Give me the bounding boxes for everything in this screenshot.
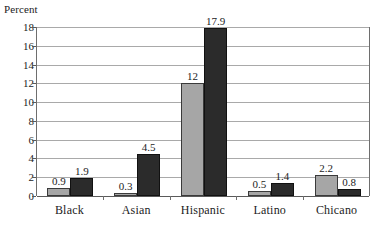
bar-value-label: 1.9 [75,166,89,177]
y-axis-tick-label: 0 [4,191,34,202]
bar-value-label: 0.9 [52,176,66,187]
plot-area: 0.91.90.34.51217.90.51.42.20.8 [36,27,370,196]
bar-group: 0.34.5 [114,27,160,196]
y-axis-tick-label: 8 [4,116,34,127]
bar-value-label: 0.8 [342,177,356,188]
y-axis-tick-mark [32,196,36,197]
bar-value-label: 12 [187,71,198,82]
bar: 2.2 [315,175,338,196]
bar: 12 [181,83,204,196]
bar-chart: Percent 024681012141618 0.91.90.34.51217… [0,0,374,233]
y-axis-tick-label: 4 [4,153,34,164]
bar-group: 0.51.4 [248,27,294,196]
x-axis-category-label: Latino [254,203,287,217]
x-axis-tick-mark [170,196,171,200]
bar-group: 2.20.8 [315,27,361,196]
bar-value-label: 1.4 [275,171,289,182]
y-axis-tick-label: 10 [4,97,34,108]
bar: 0.8 [338,189,361,197]
x-axis-tick-mark [303,196,304,200]
x-axis-category-label: Asian [122,203,151,217]
bar: 1.9 [70,178,93,196]
bar: 4.5 [137,154,160,196]
x-axis-tick-mark [103,196,104,200]
bar: 0.3 [114,193,137,196]
bar-value-label: 4.5 [142,142,156,153]
y-axis-tick-label: 14 [4,60,34,71]
bar: 17.9 [204,28,227,196]
y-axis-title: Percent [4,3,38,16]
y-axis-tick-label: 16 [4,41,34,52]
bar-group: 1217.9 [181,27,227,196]
bar-value-label: 2.2 [319,163,333,174]
bar: 1.4 [271,183,294,196]
bar-group: 0.91.9 [47,27,93,196]
y-axis-tick-label: 6 [4,135,34,146]
bar-value-label: 17.9 [206,16,225,27]
x-axis-tick-mark [236,196,237,200]
x-axis-category-label: Black [55,203,84,217]
bar: 0.5 [248,191,271,196]
axis-baseline [37,196,369,197]
bar-value-label: 0.3 [119,181,133,192]
x-axis-category-label: Chicano [316,203,357,217]
bar: 0.9 [47,188,70,196]
x-axis-category-label: Hispanic [181,203,225,217]
y-axis-tick-label: 12 [4,78,34,89]
y-axis-tick-label: 18 [4,22,34,33]
bar-value-label: 0.5 [252,179,266,190]
y-axis-tick-label: 2 [4,172,34,183]
